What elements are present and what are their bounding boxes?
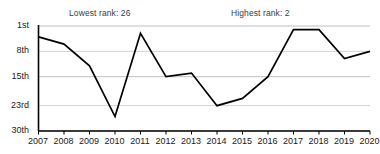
x-axis-tick-label: 2017 bbox=[283, 137, 303, 146]
y-axis-tick-label: 23rd bbox=[11, 101, 29, 110]
x-axis-labels: 2007200820092010201120122013201420152016… bbox=[38, 135, 372, 151]
y-axis-tick-label: 30th bbox=[11, 126, 29, 135]
annotation-lowest-rank: Lowest rank: 26 bbox=[69, 8, 131, 18]
x-axis-tick-label: 2014 bbox=[206, 137, 226, 146]
x-axis-tick-label: 2018 bbox=[308, 137, 328, 146]
y-axis-tick-label: 1st bbox=[17, 21, 29, 30]
rank-data-line bbox=[39, 30, 371, 117]
x-axis-tick-label: 2011 bbox=[130, 137, 149, 146]
x-axis-tick-label: 2007 bbox=[28, 137, 48, 146]
x-axis-tick-label: 2016 bbox=[257, 137, 277, 146]
annotation-highest-rank: Highest rank: 2 bbox=[231, 8, 290, 18]
x-axis-tick-label: 2010 bbox=[104, 137, 124, 146]
x-axis-tick-label: 2019 bbox=[334, 137, 354, 146]
y-axis-tick-label: 8th bbox=[16, 46, 29, 55]
x-axis-tick-label: 2015 bbox=[232, 137, 252, 146]
x-axis-tick-label: 2020 bbox=[359, 137, 379, 146]
x-axis-tick-label: 2012 bbox=[155, 137, 175, 146]
x-axis-tick-label: 2008 bbox=[53, 137, 73, 146]
x-axis-tick-label: 2013 bbox=[181, 137, 201, 146]
y-axis-tick-label: 15th bbox=[11, 72, 29, 81]
gridlines bbox=[39, 26, 371, 131]
y-axis-labels: 1st8th15th23rd30th bbox=[0, 0, 34, 154]
x-axis-tick-label: 2009 bbox=[79, 137, 99, 146]
